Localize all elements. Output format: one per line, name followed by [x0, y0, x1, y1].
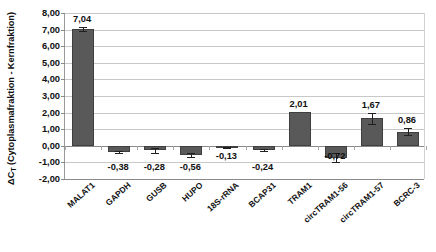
x-axis-category-label: BCAP31	[246, 180, 277, 210]
y-axis-tick-label: 2,00	[26, 108, 60, 118]
x-axis-tick-mark	[390, 146, 391, 150]
error-bar-cap	[332, 162, 340, 163]
x-axis-tick-mark	[173, 146, 174, 150]
bar	[72, 29, 94, 146]
y-axis-tick-label: 0,00	[26, 141, 60, 151]
x-axis-category-label: TRAM1	[285, 180, 313, 207]
error-bar-cap	[79, 31, 87, 32]
data-label: -0,38	[108, 162, 129, 172]
error-bar-cap	[223, 148, 231, 149]
gridline	[65, 46, 424, 47]
y-axis-tick-mark	[61, 46, 65, 47]
error-bar-cap	[79, 27, 87, 28]
y-axis-tick-mark	[61, 113, 65, 114]
y-axis-tick-label: 5,00	[26, 58, 60, 68]
y-axis-tick-mark	[61, 162, 65, 163]
y-axis-tick-label: -2,00	[26, 174, 60, 184]
error-bar-cap	[151, 148, 159, 149]
x-axis-category-label: GUSB	[144, 180, 169, 204]
data-label: 0,86	[398, 115, 416, 125]
error-bar-cap	[404, 128, 412, 129]
y-axis-tick-mark	[61, 13, 65, 14]
data-label: 2,01	[290, 99, 308, 109]
data-label: -0,28	[144, 162, 165, 172]
y-axis-tick-mark	[61, 63, 65, 64]
error-bar-cap	[260, 149, 268, 150]
y-axis-tick-label: 8,00	[26, 8, 60, 18]
x-axis-category-label: MALAT1	[65, 180, 96, 210]
y-axis-tick-mark	[61, 79, 65, 80]
y-axis-tick-mark	[61, 129, 65, 130]
error-bar-cap	[115, 153, 123, 154]
data-label: 1,67	[362, 100, 380, 110]
x-axis-tick-mark	[137, 146, 138, 150]
y-axis-tick-labels: 8,007,006,005,004,003,002,001,000,00-1,0…	[22, 0, 60, 196]
y-axis-tick-label: -1,00	[26, 157, 60, 167]
data-label: -0,13	[216, 151, 237, 161]
y-axis-tick-label: 7,00	[26, 25, 60, 35]
x-axis-tick-mark	[282, 146, 283, 150]
x-axis-category-label: BCRC-3	[391, 180, 421, 209]
error-bar-cap	[260, 151, 268, 152]
y-axis-tick-label: 3,00	[26, 91, 60, 101]
data-label: -0,56	[180, 162, 201, 172]
bar-chart: ΔCT (Cytoplasmafraktion - Kernfraktion) …	[0, 0, 436, 252]
x-axis-tick-mark	[426, 146, 427, 150]
gridline	[65, 63, 424, 64]
data-label: 7,04	[73, 14, 91, 24]
y-axis-tick-label: 1,00	[26, 124, 60, 134]
bar	[289, 112, 311, 145]
gridline	[65, 13, 424, 14]
x-axis-tick-mark	[318, 146, 319, 150]
error-bar-cap	[368, 124, 376, 125]
error-bar-cap	[368, 113, 376, 114]
x-axis-category-label: GAPDH	[104, 180, 133, 208]
x-axis-tick-mark	[65, 146, 66, 150]
error-bar-cap	[151, 153, 159, 154]
gridline	[65, 96, 424, 97]
x-axis-category-labels: MALAT1GAPDHGUSBHUPO18S-rRNABCAP31TRAM1ci…	[64, 180, 425, 252]
x-axis-tick-mark	[246, 146, 247, 150]
y-axis-title-main: ΔC	[6, 171, 16, 184]
gridline	[65, 79, 424, 80]
x-axis-category-label: HUPO	[180, 180, 205, 204]
x-axis-tick-mark	[209, 146, 210, 150]
y-axis-tick-label: 4,00	[26, 74, 60, 84]
x-axis-category-label: 18S-rRNA	[205, 180, 241, 214]
y-axis-tick-mark	[61, 96, 65, 97]
y-axis-tick-label: 6,00	[26, 41, 60, 51]
data-label: -0,24	[252, 162, 273, 172]
y-axis-title: ΔCT (Cytoplasmafraktion - Kernfraktion)	[0, 0, 22, 196]
error-bar-cap	[187, 157, 195, 158]
error-bar	[372, 113, 373, 124]
y-axis-tick-mark	[61, 30, 65, 31]
data-label: -0,72	[324, 151, 345, 161]
y-axis-title-rest: (Cytoplasmafraktion - Kernfraktion)	[6, 12, 16, 168]
gridline	[65, 30, 424, 31]
plot-area	[64, 13, 425, 179]
error-bar-cap	[404, 135, 412, 136]
x-axis-tick-mark	[101, 146, 102, 150]
x-axis-tick-mark	[354, 146, 355, 150]
error-bar-cap	[187, 153, 195, 154]
